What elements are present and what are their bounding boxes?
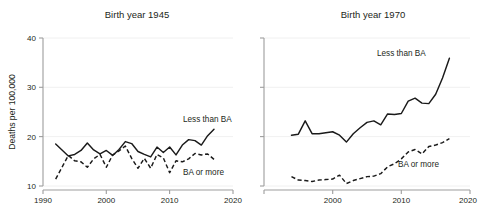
series-line-less-than-ba-1970	[291, 58, 449, 142]
x-tick-label-2010: 2010	[161, 196, 179, 205]
x-tick-label-2010-right: 2010	[392, 196, 410, 205]
series-annotation-less-than-ba-1945: Less than BA	[183, 115, 232, 124]
two-panel-line-chart: Birth year 1945 40 30 20 10 Dea	[0, 0, 484, 221]
panel-birth-year-1970: Birth year 1970	[260, 9, 477, 205]
gridlines-left	[43, 38, 233, 186]
x-tick-label-2000-right: 2000	[324, 196, 342, 205]
series-annotation-ba-or-more-1970: BA or more	[398, 160, 439, 169]
x-tick-label-2020-right: 2020	[459, 196, 477, 205]
y-tick-label-10: 10	[27, 182, 36, 191]
x-tick-label-2020: 2020	[224, 196, 242, 205]
panel-birth-year-1945: Birth year 1945 40 30 20 10 Dea	[7, 9, 242, 205]
x-tick-label-2000: 2000	[97, 196, 115, 205]
series-annotation-ba-or-more-1945: BA or more	[183, 168, 224, 177]
x-tick-label-1990: 1990	[34, 196, 52, 205]
y-axis-title: Deaths per 100,000	[7, 74, 17, 150]
y-axis-ticks-right	[260, 38, 264, 186]
series-annotation-less-than-ba-1970: Less than BA	[377, 49, 426, 58]
figure-container: Birth year 1945 40 30 20 10 Dea	[0, 0, 484, 221]
y-tick-label-20: 20	[27, 133, 36, 142]
gridlines-right	[264, 38, 470, 186]
panel-title-right: Birth year 1970	[341, 9, 405, 20]
x-axis-ticks-right: 2000 2010 2020	[264, 190, 477, 205]
y-axis-ticks-left: 40 30 20 10	[27, 34, 43, 191]
y-tick-label-40: 40	[27, 34, 36, 43]
panel-title-left: Birth year 1945	[105, 9, 169, 20]
series-line-less-than-ba-1945	[56, 129, 214, 157]
x-axis-ticks-left: 1990 2000 2010 2020	[34, 190, 242, 205]
y-tick-label-30: 30	[27, 83, 36, 92]
